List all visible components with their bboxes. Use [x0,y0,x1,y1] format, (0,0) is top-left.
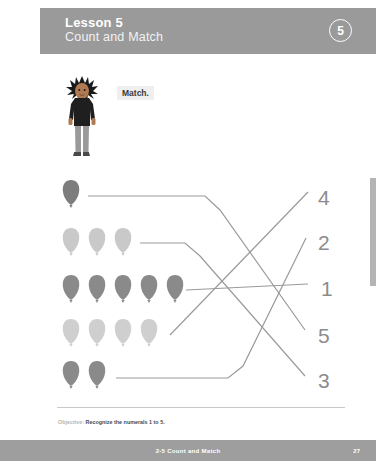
balloon-layer [63,180,184,389]
character-eye-right [84,89,86,91]
balloon [89,361,106,389]
balloon [115,319,132,347]
objective-text: Recognize the numerals 1 to 5. [86,419,165,425]
match-instruction-label: Match. [117,86,154,100]
lesson-number-badge: 5 [329,19,352,42]
balloon [63,180,80,208]
connector-row3-to-1 [186,284,308,290]
connector-row2-to-3 [140,243,305,376]
page-edge-tab [370,178,376,286]
connector-row4-to-4 [170,192,308,335]
character-leg-left [75,126,81,152]
character-hand-left [69,118,73,125]
footer-title: 2-5 Count and Match [0,440,376,461]
numeral-3: 3 [318,369,330,393]
objective-label: Objective: [58,419,84,425]
balloon [141,275,158,303]
balloon [89,275,106,303]
character-leg-right [83,126,89,152]
page-subtitle: Count and Match [65,30,163,44]
balloon [63,361,80,389]
numeral-1: 1 [321,277,333,301]
character-eye-left [78,89,80,91]
objective-line: Objective: Recognize the numerals 1 to 5… [58,419,165,425]
balloon [89,319,106,347]
balloon [63,228,80,256]
footer-page-number: 27 [353,440,360,461]
character-shoe-left [73,152,81,156]
balloon [141,319,158,347]
connector-row1-to-5 [88,196,305,330]
numeral-2: 2 [318,231,330,255]
character-shoe-right [83,152,90,156]
boy-character [62,74,102,160]
page-title: Lesson 5 [65,15,123,30]
connector-layer [88,192,308,378]
numeral-4: 4 [318,186,330,210]
character-hand-right [92,118,96,125]
balloon [63,319,80,347]
footer-bar: 2-5 Count and Match 27 [0,440,376,461]
lesson-header-bar: Lesson 5 Count and Match 5 [40,8,376,54]
objective-divider [57,407,345,408]
connector-row5-to-2 [116,238,306,378]
character-shirt [69,98,95,126]
balloon [115,275,132,303]
numeral-5: 5 [318,324,330,348]
character-face [75,83,89,99]
balloon [89,228,106,256]
balloon [115,228,132,256]
worksheet-page: Lesson 5 Count and Match 5 Match. 42153 … [0,0,376,469]
balloon [63,275,80,303]
balloon [167,275,184,303]
